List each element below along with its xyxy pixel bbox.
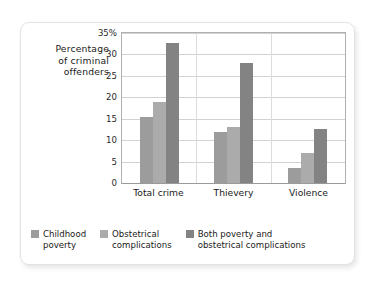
chart-legend: ChildhoodpovertyObstetricalcomplications… bbox=[31, 229, 351, 250]
legend-label: Both poverty andobstetrical complication… bbox=[198, 229, 306, 250]
x-axis-tick-labels: Total crimeThieveryViolence bbox=[121, 23, 346, 203]
legend-label: Obstetricalcomplications bbox=[112, 229, 172, 250]
x-axis-tick-label: Total crime bbox=[133, 187, 183, 198]
legend-label: Childhoodpoverty bbox=[43, 229, 86, 250]
legend-swatch-icon bbox=[100, 230, 108, 238]
legend-label-line: complications bbox=[112, 240, 172, 250]
legend-label-line: Both poverty and bbox=[198, 229, 306, 239]
legend-item[interactable]: Obstetricalcomplications bbox=[100, 229, 172, 250]
legend-label-line: Childhood bbox=[43, 229, 86, 239]
legend-swatch-icon bbox=[186, 230, 194, 238]
y-axis-tick-label: 15 bbox=[57, 114, 117, 124]
legend-label-line: poverty bbox=[43, 240, 86, 250]
y-axis-tick-label: 10 bbox=[57, 135, 117, 145]
chart-card: Percentage of criminal offenders 0510152… bbox=[20, 22, 355, 265]
legend-item[interactable]: Childhoodpoverty bbox=[31, 229, 86, 250]
y-axis-tick-label: 20 bbox=[57, 92, 117, 102]
y-axis-tick-label: 30 bbox=[57, 49, 117, 59]
x-axis-tick-label: Violence bbox=[289, 187, 328, 198]
legend-swatch-icon bbox=[31, 230, 39, 238]
legend-item[interactable]: Both poverty andobstetrical complication… bbox=[186, 229, 306, 250]
legend-label-line: obstetrical complications bbox=[198, 240, 306, 250]
y-axis-tick-labels: 05101520253035% bbox=[21, 32, 121, 184]
y-axis-tick-label: 0 bbox=[57, 178, 117, 188]
y-axis-tick-label: 35% bbox=[57, 28, 117, 38]
y-axis-tick-label: 25 bbox=[57, 71, 117, 81]
x-axis-tick-label: Thievery bbox=[214, 187, 254, 198]
y-axis-tick-label: 5 bbox=[57, 157, 117, 167]
legend-label-line: Obstetrical bbox=[112, 229, 172, 239]
